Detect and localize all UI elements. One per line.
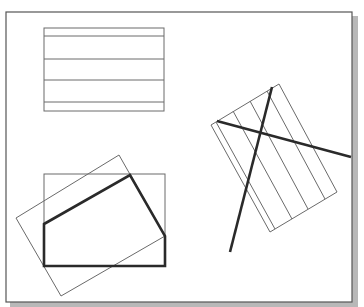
- drawing-canvas: [0, 0, 364, 307]
- drawing-frame: [6, 12, 352, 302]
- frame-group: [6, 12, 358, 307]
